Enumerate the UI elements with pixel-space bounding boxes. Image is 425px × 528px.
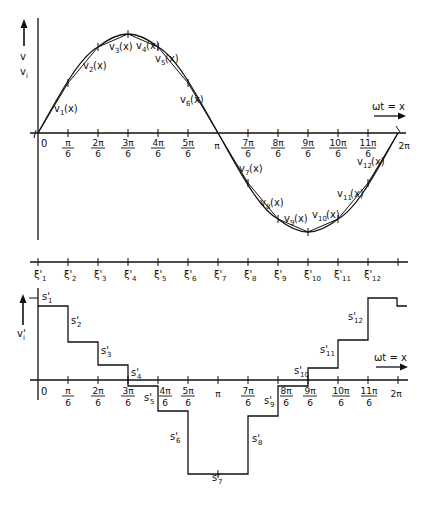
label-v1: v1(x) [54, 103, 78, 117]
xi-labels: ξ'1 ξ'2 ξ'3 ξ'4 ξ'5 ξ'6 ξ'7 ξ'8 ξ'9 ξ'10… [34, 269, 381, 283]
label-v5: v5(x) [155, 53, 179, 67]
svg-text:6: 6 [65, 398, 71, 408]
svg-text:11: 11 [326, 350, 335, 358]
top-graph: v v i ωt = x 0 π6 2π6 3π6 4π6 5π6 π [20, 18, 410, 240]
svg-text:(x): (x) [326, 209, 340, 220]
svg-text:6: 6 [335, 149, 341, 159]
svg-text:6: 6 [338, 398, 344, 408]
svg-text:3: 3 [107, 351, 111, 359]
svg-text:(x): (x) [165, 53, 179, 64]
svg-text:5: 5 [162, 275, 166, 283]
svg-text:11π: 11π [361, 386, 378, 396]
bottom-y-arrow-icon [20, 294, 27, 325]
svg-text:9π: 9π [302, 138, 314, 148]
label-v4: v4(x) [136, 40, 160, 54]
svg-text:π: π [215, 389, 221, 399]
svg-text:12: 12 [354, 317, 363, 325]
svg-text:1: 1 [48, 297, 52, 305]
svg-text:(x): (x) [371, 156, 385, 167]
top-tick-4pi-6: 4π6 [151, 138, 165, 159]
svg-text:4π: 4π [152, 138, 164, 148]
svg-text:6: 6 [176, 437, 181, 445]
svg-text:10: 10 [300, 371, 309, 379]
svg-text:(x): (x) [249, 163, 263, 174]
svg-text:7π: 7π [242, 386, 254, 396]
svg-text:2π: 2π [92, 138, 104, 148]
svg-text:6: 6 [185, 398, 191, 408]
svg-text:3π: 3π [122, 138, 134, 148]
svg-text:6: 6 [275, 149, 281, 159]
svg-text:10: 10 [312, 275, 321, 283]
top-tick-0: 0 [41, 138, 47, 149]
svg-text:5π: 5π [182, 386, 194, 396]
svg-text:9: 9 [282, 275, 286, 283]
label-v2: v2(x) [83, 60, 107, 74]
top-x-arrow-icon [374, 113, 406, 120]
top-y-arrow-icon [21, 19, 28, 46]
svg-text:12: 12 [372, 275, 381, 283]
svg-text:4π: 4π [159, 386, 171, 396]
label-v8: v8(x) [260, 197, 284, 211]
bottom-tick-fractions: π6 2π6 3π6 4π6 5π6 π 7π6 8π6 9π6 10π6 11… [62, 386, 402, 408]
top-y-label-vi: v i [20, 66, 28, 80]
svg-text:10π: 10π [333, 386, 350, 396]
top-tick-2pi: 2π [398, 141, 410, 151]
svg-text:11π: 11π [360, 138, 377, 148]
top-tick-2pi-6: 2π6 [91, 138, 105, 159]
svg-text:i: i [23, 334, 25, 342]
svg-text:4: 4 [137, 373, 142, 381]
top-x-label: ωt = x [372, 101, 405, 112]
svg-text:(x): (x) [146, 40, 160, 51]
svg-text:6: 6 [65, 149, 71, 159]
svg-text:6: 6 [366, 398, 372, 408]
svg-text:7: 7 [218, 478, 222, 486]
svg-text:6: 6 [245, 149, 251, 159]
svg-text:4: 4 [132, 275, 137, 283]
top-tick-5pi-6: 5π6 [181, 138, 195, 159]
svg-text:8: 8 [258, 439, 262, 447]
svg-text:(x): (x) [294, 213, 308, 224]
svg-text:6: 6 [125, 149, 131, 159]
svg-text:6: 6 [162, 398, 168, 408]
svg-text:π: π [65, 138, 71, 148]
svg-text:2π: 2π [92, 386, 104, 396]
label-v3: v3(x) [109, 41, 133, 55]
svg-text:(x): (x) [190, 94, 204, 105]
svg-text:(x): (x) [270, 197, 284, 208]
svg-text:(x): (x) [119, 41, 133, 52]
svg-text:i: i [26, 72, 28, 80]
svg-text:6: 6 [192, 275, 197, 283]
top-tick-pi-6: π6 [62, 138, 74, 159]
svg-text:1: 1 [42, 275, 46, 283]
label-v11: v11(x) [337, 188, 364, 202]
svg-text:6: 6 [305, 149, 311, 159]
label-v6: v6(x) [180, 94, 204, 108]
svg-text:6: 6 [283, 398, 289, 408]
svg-text:9π: 9π [304, 386, 316, 396]
svg-text:6: 6 [95, 149, 101, 159]
top-tick-10pi-6: 10π6 [329, 138, 347, 159]
svg-text:6: 6 [125, 398, 131, 408]
top-tick-3pi-6: 3π6 [121, 138, 135, 159]
svg-text:6: 6 [95, 398, 101, 408]
top-y-label-v: v [20, 51, 26, 62]
bottom-tick-0: 0 [41, 386, 47, 397]
svg-text:6: 6 [185, 149, 191, 159]
svg-text:6: 6 [245, 398, 251, 408]
svg-text:6: 6 [155, 149, 161, 159]
svg-text:3: 3 [102, 275, 106, 283]
top-tick-pi: π [214, 141, 220, 151]
svg-text:11: 11 [342, 275, 351, 283]
svg-text:8π: 8π [280, 386, 292, 396]
figure-canvas: v v i ωt = x 0 π6 2π6 3π6 4π6 5π6 π [0, 0, 425, 528]
bottom-graph: v' i ωt = x 0 π6 2π6 3π6 4π6 5π6 π 7π6 8… [17, 288, 408, 486]
bottom-y-label: v' i [17, 328, 26, 342]
top-tick-7pi-6: 7π6 [241, 138, 255, 159]
xi-axis: ξ'1 ξ'2 ξ'3 ξ'4 ξ'5 ξ'6 ξ'7 ξ'8 ξ'9 ξ'10… [30, 258, 408, 283]
svg-text:2π: 2π [390, 389, 402, 399]
svg-text:3π: 3π [122, 386, 134, 396]
svg-text:2: 2 [77, 321, 81, 329]
label-v12: v12(x) [357, 156, 385, 170]
svg-text:9: 9 [270, 401, 274, 409]
top-tick-9pi-6: 9π6 [301, 138, 315, 159]
